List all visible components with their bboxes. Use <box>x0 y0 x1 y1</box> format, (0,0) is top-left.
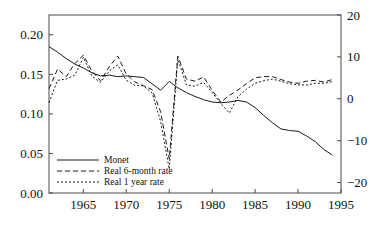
left-tick-label: 0.05 <box>20 146 43 161</box>
chart-figure: 0.000.050.100.150.20 −20−1001020 1965197… <box>0 0 387 233</box>
x-tick-label: 1965 <box>70 197 96 212</box>
chart-canvas: 0.000.050.100.150.20 −20−1001020 1965197… <box>0 0 387 233</box>
x-tick-label: 1970 <box>113 197 139 212</box>
right-tick-label: 20 <box>347 8 360 23</box>
x-tick-label: 1985 <box>242 197 268 212</box>
x-axis-ticks: 1965197019751980198519901995 <box>70 189 354 212</box>
x-tick-label: 1995 <box>328 197 354 212</box>
right-tick-label: −10 <box>347 133 367 148</box>
left-tick-label: 0.00 <box>20 186 43 201</box>
chart-legend: MonetReal 6-month rateReal 1 year rate <box>57 155 173 187</box>
legend-item-real-6-month-rate: Real 6-month rate <box>57 166 173 176</box>
legend-item-real-1-year-rate: Real 1 year rate <box>57 177 164 187</box>
right-tick-label: 10 <box>347 49 360 64</box>
x-tick-label: 1980 <box>199 197 225 212</box>
right-tick-label: −20 <box>347 175 367 190</box>
x-tick-label: 1975 <box>156 197 182 212</box>
left-tick-label: 0.15 <box>20 67 43 82</box>
plot-border <box>49 15 341 193</box>
series-line-monet <box>49 47 332 155</box>
legend-label: Real 1 year rate <box>104 177 164 187</box>
data-series-layer <box>49 47 332 169</box>
legend-label: Real 6-month rate <box>104 166 173 176</box>
legend-label: Monet <box>104 155 129 165</box>
series-line-real-6-month-rate <box>49 55 332 159</box>
legend-item-monet: Monet <box>57 155 129 165</box>
right-tick-label: 0 <box>347 91 354 106</box>
left-tick-label: 0.20 <box>20 27 43 42</box>
plot-frame <box>49 15 341 193</box>
x-tick-label: 1990 <box>285 197 311 212</box>
series-line-real-1-year-rate <box>49 57 332 169</box>
left-tick-label: 0.10 <box>20 106 43 121</box>
left-axis-ticks: 0.000.050.100.150.20 <box>20 27 53 200</box>
right-axis-ticks: −20−1001020 <box>337 8 367 191</box>
